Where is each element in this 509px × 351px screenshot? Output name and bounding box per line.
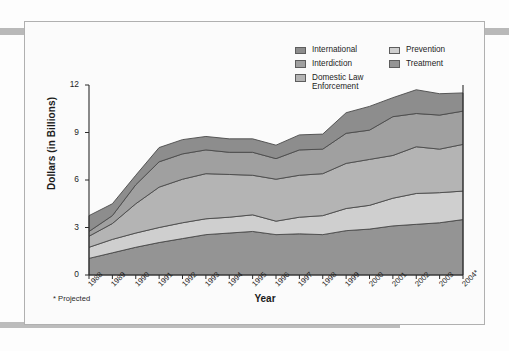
y-tick-label: 9 [53, 127, 79, 137]
y-tick-label: 0 [53, 269, 79, 279]
chart-card: International Interdiction Domestic Law … [24, 21, 485, 325]
y-tick-label: 3 [53, 222, 79, 232]
y-tick-label: 6 [53, 174, 79, 184]
figure-page: International Interdiction Domestic Law … [0, 0, 509, 351]
y-tick-label: 12 [53, 79, 79, 89]
chart-footnote: * Projected [53, 294, 90, 303]
y-axis-title: Dollars (in Billions) [46, 84, 57, 204]
x-axis-title: Year [225, 293, 305, 304]
plot-area: Dollars (in Billions) Year * Projected 0… [25, 22, 486, 326]
